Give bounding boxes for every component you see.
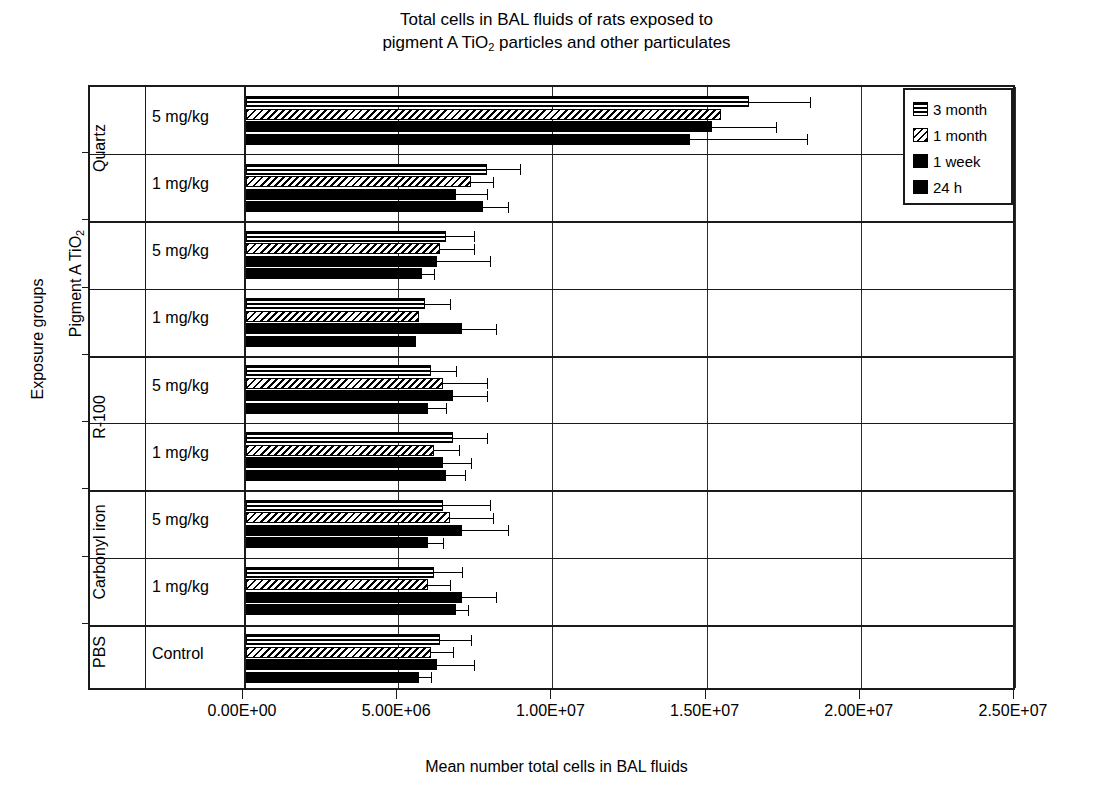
bar-r-100-5-mg-kg-1-month [246,378,443,389]
error-bar [483,207,508,208]
chart-title-line2-pre: pigment A TiO [382,33,488,52]
error-bar-cap [459,445,460,456]
error-bar [428,543,443,544]
error-bar [422,274,434,275]
error-bar [428,408,447,409]
legend-swatch-icon [913,128,928,142]
error-bar [425,304,450,305]
error-bar [456,194,487,195]
legend-swatch-icon [913,180,928,194]
error-bar-cap [474,231,475,242]
bars-layer [246,87,1013,688]
bar-pigment-a-tio2-5-mg-kg-3-month [246,231,446,242]
bar-r-100-1-mg-kg-1-month [246,445,434,456]
bar-quartz-1-mg-kg-1-month [246,176,471,187]
x-axis-tick-label: 2.00E+07 [789,702,929,720]
error-bar-cap [520,164,521,175]
bar-pigment-a-tio2-5-mg-kg-1-week [246,256,437,267]
error-bar [434,450,459,451]
bar-r-100-5-mg-kg-1-week [246,390,453,401]
legend-item-3-month[interactable]: 3 month [913,96,1011,122]
bar-carbonyl-iron-5-mg-kg-1-week [246,525,462,536]
bar-pbs-control-1-month [246,647,431,658]
legend-label: 3 month [933,101,987,118]
chart-title-line1: Total cells in BAL fluids of rats expose… [400,10,713,29]
error-bar [462,329,496,330]
bar-carbonyl-iron-1-mg-kg-1-month [246,579,428,590]
bar-carbonyl-iron-1-mg-kg-24-h [246,604,456,615]
y-axis-group-label: Quartz [91,48,109,248]
legend-item-24-h[interactable]: 24 h [913,174,1011,200]
error-bar [462,530,508,531]
legend-item-1-week[interactable]: 1 week [913,148,1011,174]
bar-quartz-5-mg-kg-1-week [246,121,712,132]
bar-pigment-a-tio2-1-mg-kg-1-month [246,311,419,322]
x-axis-tick [705,690,706,699]
error-bar-cap [810,97,811,108]
x-axis-tick-label: 1.50E+07 [635,702,775,720]
error-bar-cap [462,567,463,578]
bar-r-100-5-mg-kg-3-month [246,365,431,376]
bar-pbs-control-3-month [246,634,440,645]
y-axis-line [88,85,90,690]
group-divider-line [145,85,146,219]
error-bar-cap [487,189,488,200]
group-divider-line [145,488,146,622]
x-axis-tick-label: 2.50E+07 [943,702,1083,720]
legend-label: 1 month [933,127,987,144]
bar-quartz-1-mg-kg-24-h [246,201,483,212]
error-bar-cap [453,647,454,658]
legend-item-1-month[interactable]: 1 month [913,122,1011,148]
error-bar-cap [446,403,447,414]
y-axis-dose-label: 1 mg/kg [152,444,238,462]
legend: 3 month1 month1 week24 h [903,88,1013,205]
legend-swatch-icon [913,154,928,168]
error-bar [487,169,521,170]
bar-pigment-a-tio2-1-mg-kg-1-week [246,323,462,334]
y-axis-dose-label: 1 mg/kg [152,175,238,193]
x-axis-tick-label: 5.00E+06 [326,702,466,720]
error-bar [749,102,811,103]
x-axis-tick [396,690,397,699]
error-bar-cap [468,605,469,616]
bar-quartz-1-mg-kg-3-month [246,164,487,175]
error-bar-cap [431,672,432,683]
error-bar-cap [487,378,488,389]
gridline-2.50E+07 [1015,87,1016,688]
error-bar [434,572,462,573]
error-bar-cap [490,256,491,267]
bar-carbonyl-iron-5-mg-kg-3-month [246,500,443,511]
group-label-text: Pigment A TiO [67,236,84,337]
y-axis-group-label: Pigment A TiO2 [67,183,86,383]
error-bar-cap [487,433,488,444]
error-bar [453,438,487,439]
error-bar-cap [474,660,475,671]
error-bar [437,665,474,666]
x-axis-tick [550,690,551,699]
y-axis-dose-label: 1 mg/kg [152,309,238,327]
error-bar-cap [471,635,472,646]
bar-r-100-1-mg-kg-3-month [246,432,453,443]
y-axis-dose-label: 5 mg/kg [152,377,238,395]
error-bar [462,597,496,598]
error-bar [450,518,493,519]
error-bar-cap [493,513,494,524]
y-axis-group-label: PBS [91,552,109,752]
error-bar [443,463,471,464]
y-axis-dose-label: 5 mg/kg [152,242,238,260]
chart-title-line2-post: particles and other particulates [494,33,730,52]
error-bar [456,610,468,611]
error-bar [453,396,487,397]
legend-label: 24 h [933,179,962,196]
x-axis-title: Mean number total cells in BAL fluids [0,758,1113,776]
error-bar [443,505,489,506]
bar-quartz-5-mg-kg-1-month [246,109,721,120]
y-axis-dose-label: 5 mg/kg [152,511,238,529]
group-divider-line [145,623,146,690]
bar-carbonyl-iron-5-mg-kg-24-h [246,537,428,548]
y-axis-title: Exposure groups [29,219,47,459]
error-bar [440,640,471,641]
error-bar [471,182,493,183]
error-bar-cap [490,500,491,511]
legend-label: 1 week [933,153,981,170]
